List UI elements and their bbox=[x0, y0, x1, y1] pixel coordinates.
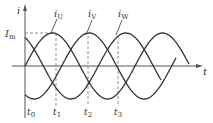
three-phase-waveform-diagram: i t Im iU iV iW t0 t1 t2 t3 bbox=[0, 0, 213, 123]
t1-label: t1 bbox=[53, 107, 61, 119]
x-axis-label: t bbox=[203, 66, 208, 77]
im-label: Im bbox=[4, 28, 16, 41]
y-axis-label: i bbox=[17, 5, 20, 16]
t3-label: t3 bbox=[114, 107, 122, 119]
iu-label: iU bbox=[54, 8, 63, 21]
iv-label: iV bbox=[88, 8, 97, 21]
iw-leader-line bbox=[116, 20, 122, 35]
iu-leader-line bbox=[51, 19, 57, 33]
y-axis-arrow-icon bbox=[23, 4, 27, 11]
t0-label: t0 bbox=[27, 107, 35, 119]
t2-label: t2 bbox=[84, 107, 92, 119]
iw-label: iW bbox=[118, 8, 129, 21]
x-axis-arrow-icon bbox=[196, 64, 203, 68]
